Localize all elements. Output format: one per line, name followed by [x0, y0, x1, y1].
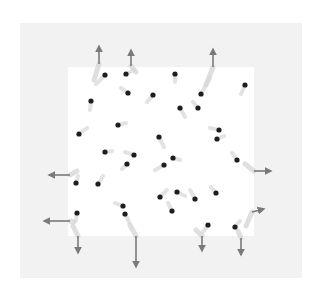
particle-dot	[214, 136, 219, 141]
escape-trail	[206, 67, 213, 85]
particle-dot	[122, 211, 127, 216]
particle-dot	[150, 92, 155, 97]
particle-dot	[198, 91, 203, 96]
particle-dot	[195, 105, 200, 110]
particle-dot	[216, 127, 221, 132]
escape-trail	[245, 164, 254, 171]
particle-dot	[161, 162, 166, 167]
particle-dot	[242, 82, 247, 87]
particle-scene	[0, 0, 317, 295]
particle-dot	[88, 98, 93, 103]
particle-dot	[177, 105, 182, 110]
particle-dot	[174, 189, 179, 194]
particle-dot	[170, 155, 175, 160]
particle-dot	[131, 152, 136, 157]
particle-dot	[115, 122, 120, 127]
particle-dot	[172, 71, 177, 76]
escape-trail	[130, 225, 136, 236]
escape-trail	[73, 226, 78, 236]
particle-dot	[232, 224, 237, 229]
particle-dot	[213, 190, 218, 195]
particle-dot	[156, 134, 161, 139]
particle-dot	[124, 161, 129, 166]
particle-dot	[120, 203, 125, 208]
particle-dot	[169, 208, 174, 213]
escape-trail	[94, 64, 99, 80]
particle-dot	[192, 196, 197, 201]
particle-dot	[76, 131, 81, 136]
particle-dot	[234, 157, 239, 162]
motion-trails	[70, 64, 254, 238]
particle-dot	[205, 222, 210, 227]
particle-dot	[157, 194, 162, 199]
particle-dot	[125, 90, 130, 95]
escape-trail	[70, 171, 77, 175]
particle-dot	[74, 210, 79, 215]
escape-trail	[246, 212, 252, 226]
particle-dot	[123, 71, 128, 76]
particle-dot	[95, 181, 100, 186]
particles	[73, 71, 247, 229]
escape-trail	[196, 230, 202, 236]
particle-dot	[102, 149, 107, 154]
particle-dot	[102, 72, 107, 77]
particle-dot	[73, 180, 78, 185]
escape-trail	[70, 221, 74, 222]
escape-trail	[238, 231, 241, 238]
